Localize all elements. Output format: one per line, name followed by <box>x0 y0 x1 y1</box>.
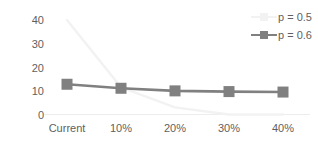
legend-swatch-icon-p-0-6 <box>251 29 277 41</box>
x-tick-label-current: Current <box>49 122 86 134</box>
x-tick-label-40: 40% <box>272 122 294 134</box>
data-point-marker <box>278 87 289 98</box>
x-tick-label-30: 30% <box>218 122 240 134</box>
data-point-marker <box>62 79 73 90</box>
legend-label-p-0-5: p = 0.5 <box>278 11 312 23</box>
data-point-marker <box>116 83 127 94</box>
legend-item-p-0-6[interactable]: p = 0.6 <box>206 26 312 44</box>
series-p-0-6 <box>62 79 289 98</box>
x-tick-label-20: 20% <box>164 122 186 134</box>
legend: p = 0.5 p = 0.6 <box>206 8 312 44</box>
data-point-marker <box>224 86 235 97</box>
legend-swatch-icon-p-0-5 <box>251 11 277 23</box>
line-chart: 40 30 20 10 0 Current 10% 20% 30% 40% <box>0 0 318 151</box>
legend-item-p-0-5[interactable]: p = 0.5 <box>206 8 312 26</box>
x-tick-label-10: 10% <box>110 122 132 134</box>
legend-label-p-0-6: p = 0.6 <box>278 29 312 41</box>
x-axis: Current 10% 20% 30% 40% <box>0 122 318 138</box>
data-point-marker <box>170 85 181 96</box>
